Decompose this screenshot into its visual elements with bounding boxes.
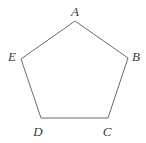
vertex-label-c: C <box>103 125 112 138</box>
pentagon-outline <box>21 21 128 118</box>
vertex-label-e: E <box>8 50 16 63</box>
vertex-label-d: D <box>33 125 42 138</box>
vertex-label-a: A <box>71 5 79 18</box>
vertex-label-b: B <box>132 50 140 63</box>
pentagon-figure: A B C D E <box>0 0 146 143</box>
pentagon-shape <box>0 0 146 143</box>
